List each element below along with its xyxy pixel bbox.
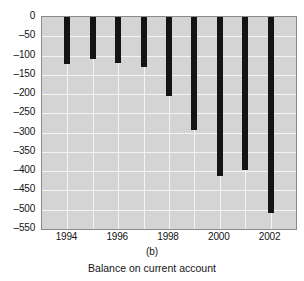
bar-2001 xyxy=(242,17,248,170)
bar-1999 xyxy=(191,17,197,130)
bar-2002 xyxy=(268,17,274,213)
figure-balance-on-current-account: 0–50–100–150–200–250–300–350–400–450–500… xyxy=(0,0,304,281)
figure-caption: Balance on current account xyxy=(0,262,304,275)
x-tick-label: 1996 xyxy=(106,231,127,243)
bar-2000 xyxy=(217,17,223,176)
x-tick-label: 2000 xyxy=(208,231,229,243)
y-tick-label: –450 xyxy=(14,184,35,194)
bar-1995 xyxy=(90,17,96,59)
y-tick-label: –50 xyxy=(19,30,35,40)
y-tick-label: –200 xyxy=(14,88,35,98)
plot-area xyxy=(41,16,297,230)
bar-1998 xyxy=(166,17,172,96)
bar-1997 xyxy=(141,17,147,67)
y-axis: 0–50–100–150–200–250–300–350–400–450–500… xyxy=(0,0,38,250)
x-axis: 19941996199820002002 xyxy=(41,231,295,247)
y-tick-label: –550 xyxy=(14,223,35,233)
x-tick-label: 1998 xyxy=(157,231,178,243)
y-tick-label: –300 xyxy=(14,127,35,137)
bar-1994 xyxy=(64,17,70,64)
x-tick-label: 1994 xyxy=(56,231,77,243)
y-tick-label: –150 xyxy=(14,69,35,79)
y-tick-label: –400 xyxy=(14,165,35,175)
y-tick-label: –500 xyxy=(14,204,35,214)
gridline-horizontal xyxy=(42,229,296,230)
y-tick-label: 0 xyxy=(30,11,35,21)
y-tick-label: –350 xyxy=(14,146,35,156)
panel-label: (b) xyxy=(0,246,304,258)
bar-1996 xyxy=(115,17,121,63)
x-tick-label: 2002 xyxy=(259,231,280,243)
y-tick-label: –250 xyxy=(14,107,35,117)
y-tick-label: –100 xyxy=(14,50,35,60)
